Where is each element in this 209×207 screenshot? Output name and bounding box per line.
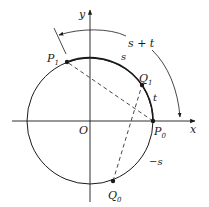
arc-label-t: t [153, 92, 158, 103]
point-p1 [65, 60, 69, 64]
label-p1: P1 [46, 52, 59, 67]
point-p0 [151, 119, 155, 123]
x-axis-label: x [190, 123, 197, 136]
arc-label-s-plus-t: s + t [128, 37, 155, 50]
origin-label: O [79, 124, 88, 137]
arc-label-s: s [121, 51, 126, 62]
chord-q0-q1 [113, 85, 142, 181]
arc-label-neg-s: −s [149, 156, 163, 167]
point-q0 [111, 179, 115, 183]
unit-circle-diagram: y x O P1 Q1 P0 Q0 s t −s s + t [0, 0, 209, 207]
label-p0: P0 [153, 125, 166, 140]
arc-s-plus-t [67, 58, 153, 121]
s-plus-t-arrow [59, 30, 126, 36]
y-axis-label: y [78, 8, 86, 21]
label-q1: Q1 [139, 72, 153, 87]
s-plus-t-arrow-right [152, 50, 180, 117]
label-q0: Q0 [108, 189, 122, 204]
p1-radial-tick [54, 28, 66, 54]
